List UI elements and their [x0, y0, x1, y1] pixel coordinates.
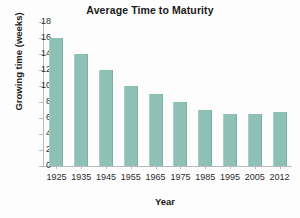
x-tick-mark: [56, 166, 57, 169]
x-tick-mark: [205, 166, 206, 169]
x-tick-label: 1965: [143, 172, 168, 182]
x-tick-label: 1995: [218, 172, 243, 182]
bar: [99, 70, 113, 166]
bar: [223, 114, 237, 166]
bar: [149, 94, 163, 166]
x-tick-label: 2012: [267, 172, 292, 182]
x-tick-label: 1985: [193, 172, 218, 182]
x-tick-mark: [131, 166, 132, 169]
x-tick-mark: [255, 166, 256, 169]
chart-title: Average Time to Maturity: [0, 4, 300, 16]
x-axis-title: Year: [40, 196, 290, 207]
y-tick-mark: [39, 118, 43, 119]
bar: [273, 112, 287, 166]
x-tick-label: 1935: [69, 172, 94, 182]
bar: [173, 102, 187, 166]
bar: [198, 110, 212, 166]
y-tick-mark: [39, 38, 43, 39]
x-tick-label: 1925: [44, 172, 69, 182]
x-tick-mark: [156, 166, 157, 169]
x-tick-mark: [106, 166, 107, 169]
bar: [248, 114, 262, 166]
y-tick-mark: [39, 150, 43, 151]
x-tick-mark: [180, 166, 181, 169]
x-tick-label: 1975: [168, 172, 193, 182]
x-tick-mark: [280, 166, 281, 169]
x-tick-label: 1945: [94, 172, 119, 182]
x-tick-mark: [230, 166, 231, 169]
y-tick-mark: [39, 22, 43, 23]
y-tick-mark: [39, 166, 43, 167]
x-tick-label: 2005: [242, 172, 267, 182]
y-tick-mark: [39, 70, 43, 71]
plot-area: [44, 22, 292, 166]
y-tick-mark: [39, 134, 43, 135]
x-tick-label: 1955: [118, 172, 143, 182]
chart-figure: Average Time to Maturity Growing time (w…: [0, 0, 300, 218]
x-tick-mark: [81, 166, 82, 169]
bar: [49, 38, 63, 166]
y-tick-mark: [39, 102, 43, 103]
bar: [74, 54, 88, 166]
y-tick-mark: [39, 54, 43, 55]
y-tick-mark: [39, 86, 43, 87]
bar: [124, 86, 138, 166]
